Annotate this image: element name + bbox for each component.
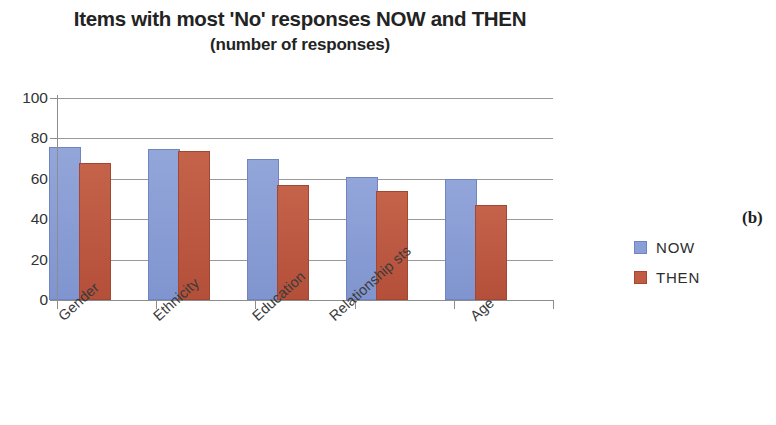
x-axis-label-ethnicity: Ethnicity — [150, 275, 202, 324]
x-axis-category-labels: GenderEthnicityEducationRelationship sts… — [0, 0, 776, 425]
x-axis-label-education: Education — [249, 268, 308, 324]
chart-legend: NOWTHEN — [634, 232, 700, 292]
legend-item-then: THEN — [634, 262, 700, 292]
legend-label: THEN — [656, 269, 700, 286]
legend-swatch-icon — [634, 271, 647, 284]
panel-caption: (b) — [742, 208, 763, 228]
x-axis-label-age: Age — [467, 295, 497, 324]
x-axis-label-relationship-sts: Relationship sts — [326, 242, 414, 323]
chart-figure: Items with most 'No' responses NOW and T… — [0, 0, 776, 425]
legend-swatch-icon — [634, 241, 647, 254]
legend-label: NOW — [656, 239, 695, 256]
x-axis-label-gender: Gender — [55, 279, 102, 324]
legend-item-now: NOW — [634, 232, 700, 262]
